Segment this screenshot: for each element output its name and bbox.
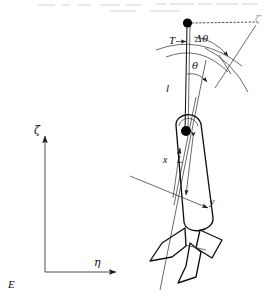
body-centerline — [160, 60, 206, 290]
dashed-reference-line — [192, 22, 257, 23]
length-l-label: l — [166, 82, 169, 94]
tension-label: T — [169, 34, 176, 46]
body-x-axis-label: x — [162, 154, 168, 165]
body-centerline-group — [160, 60, 206, 290]
center-of-mass-marker — [181, 126, 191, 136]
body-y-axis-label: y — [209, 196, 215, 207]
theta-arc — [187, 74, 207, 82]
outer-arc-left — [156, 44, 242, 66]
diagram-svg: ζ η E ζ′ T l — [0, 0, 271, 297]
reference-direction-ray — [215, 25, 256, 88]
figure-canvas: ζ η E ζ′ T l — [0, 0, 271, 297]
body-length-arrow — [186, 137, 193, 195]
earth-fixed-frame: ζ η E — [7, 124, 116, 290]
theta-label: θ — [192, 60, 198, 71]
zeta-prime-label: ζ′ — [255, 14, 262, 24]
tail-fin-left — [150, 228, 186, 261]
delta-theta-label: Δθ — [194, 33, 208, 44]
body-length-label: L — [176, 154, 183, 165]
body-fixed-frame: x y — [130, 148, 215, 208]
arc-tick-mark — [219, 55, 231, 74]
eta-axis-label: η — [94, 256, 101, 269]
earth-origin-label: E — [7, 278, 15, 290]
zeta-axis-label: ζ — [34, 124, 41, 137]
suspension-rod-right — [188, 25, 190, 132]
body-y-axis-line — [130, 176, 208, 208]
suspension-rod-left — [185, 25, 187, 132]
tail-fin-right — [196, 230, 222, 258]
fin-joint-line — [185, 245, 206, 250]
pivot-point-marker — [183, 18, 192, 27]
